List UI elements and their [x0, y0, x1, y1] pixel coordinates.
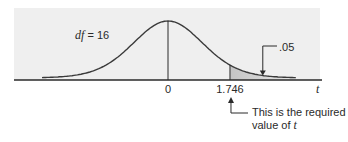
df-label: df = 16: [75, 28, 109, 42]
annotation-leader-line: [231, 102, 248, 113]
annotation-up-arrow-icon: [228, 97, 234, 103]
x-tick-label-0: 0: [165, 83, 171, 95]
tail-area-label: .05: [279, 41, 294, 53]
annotation-line-2-prefix: value of: [252, 119, 294, 131]
annotation-t-symbol: t: [294, 118, 298, 132]
t-distribution-diagram: df = 16 0 1.746 t .05 This is the requir…: [0, 0, 348, 142]
annotation-line-1: This is the required: [252, 106, 346, 118]
df-value: = 16: [84, 29, 109, 41]
x-axis-label: t: [316, 82, 320, 96]
x-tick-label-critical: 1.746: [216, 83, 244, 95]
annotation-line-2: value of t: [252, 118, 298, 132]
plot-background-panel: [14, 8, 320, 80]
